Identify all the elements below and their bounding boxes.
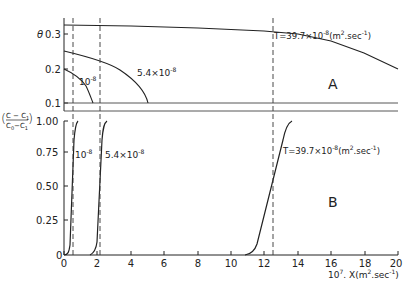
a-label-t39.7: T=39.7×10-8(m2.sec-1) <box>273 29 371 41</box>
svg-text:6: 6 <box>161 258 167 269</box>
svg-text:14: 14 <box>292 258 305 269</box>
svg-text:4: 4 <box>128 258 134 269</box>
b-label-t39.7: T=39.7×10-8(m2.sec-1) <box>282 144 380 156</box>
b-label-5.4e-8: 5.4×10-8 <box>105 148 144 160</box>
svg-text:C0−C1: C0−C1 <box>6 122 28 131</box>
b-ytick-label: 0.50 <box>36 181 58 192</box>
a-ytick-label: 0.3 <box>45 29 61 40</box>
a-curve-5.4e-8 <box>64 51 148 103</box>
svg-text:10: 10 <box>225 258 238 269</box>
b-ytick-label: 1.00 <box>36 116 58 127</box>
svg-text:12: 12 <box>258 258 271 269</box>
panel-b: ( C − C1 C0−C1 ) 1.00 0.75 0.50 0.25 0 <box>1 111 402 280</box>
chart: θ 0.3 0.2 0.1 10-8 5.4×10-8 T=39.7×10-8(… <box>0 0 413 286</box>
b-curve-t39.7 <box>245 121 292 255</box>
svg-text:0: 0 <box>61 258 67 269</box>
x-ticks <box>64 251 398 255</box>
b-label-1e-8: 10-8 <box>75 148 93 160</box>
a-label-1e-8: 10-8 <box>79 75 97 87</box>
b-curve-5.4e-8 <box>90 121 107 255</box>
svg-text:): ) <box>28 111 33 126</box>
a-label-5.4e-8: 5.4×10-8 <box>137 66 176 78</box>
a-ytick-label: 0.2 <box>45 64 61 75</box>
svg-text:C − C1: C − C1 <box>6 112 29 121</box>
svg-text:16: 16 <box>325 258 338 269</box>
b-ytick-label: 0.75 <box>36 147 58 158</box>
x-tick-labels: 0 2 4 6 8 10 12 14 16 18 20 <box>61 258 403 269</box>
dashed-reference-lines <box>73 18 273 255</box>
x-axis-label: 107. X(m2.sec-1) <box>328 268 399 280</box>
b-ylabel: ( C − C1 C0−C1 ) <box>1 111 33 131</box>
panel-a: θ 0.3 0.2 0.1 10-8 5.4×10-8 T=39.7×10-8(… <box>37 18 398 111</box>
svg-text:8: 8 <box>195 258 201 269</box>
b-ytick-label: 0.25 <box>36 215 58 226</box>
svg-text:2: 2 <box>94 258 100 269</box>
theta-label: θ <box>37 29 43 40</box>
panel-a-label: A <box>328 76 338 92</box>
a-ytick-label: 0.1 <box>45 98 61 109</box>
b-curve-1e-8 <box>64 121 78 255</box>
panel-b-label: B <box>328 194 338 210</box>
